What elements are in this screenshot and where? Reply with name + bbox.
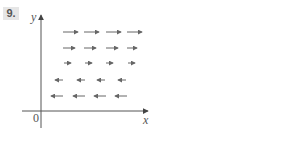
origin-label: 0	[33, 111, 39, 125]
vector-field-diagram: y x 0	[0, 0, 301, 141]
vector-arrows	[51, 32, 142, 96]
y-axis-label: y	[30, 10, 37, 24]
x-axis-label: x	[142, 113, 149, 127]
